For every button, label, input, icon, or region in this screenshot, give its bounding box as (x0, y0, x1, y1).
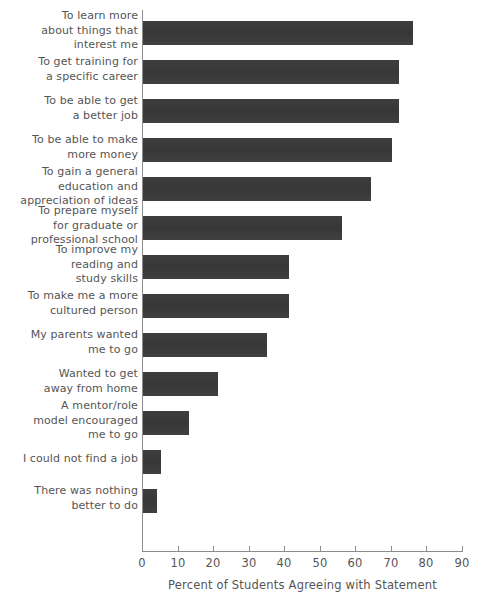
bar-category-label: To make me a more cultured person (8, 289, 138, 318)
bar-row: To be able to get a better job (0, 88, 491, 127)
x-axis-tick-label: 20 (193, 556, 233, 570)
x-axis-tick-label: 50 (300, 556, 340, 570)
bar-row: To be able to make more money (0, 127, 491, 166)
bar-row: Wanted to get away from home (0, 361, 491, 400)
bar (143, 489, 157, 513)
bar (143, 255, 289, 279)
bar-row: A mentor/role model encouraged me to go (0, 400, 491, 439)
x-axis-tick (284, 546, 285, 552)
bar-row: To get training for a specific career (0, 49, 491, 88)
bar (143, 99, 399, 123)
bar-category-label: To be able to make more money (8, 133, 138, 162)
bar-category-label: To learn more about things that interest… (8, 9, 138, 53)
bar (143, 411, 189, 435)
bar (143, 333, 267, 357)
bar-category-label: To get training for a specific career (8, 55, 138, 84)
bar-rows-container: To learn more about things that interest… (0, 10, 491, 551)
x-axis-tick-label: 0 (122, 556, 162, 570)
bar-row: I could not find a job (0, 439, 491, 478)
bar-row: My parents wanted me to go (0, 322, 491, 361)
bar-category-label: A mentor/role model encouraged me to go (8, 399, 138, 443)
x-axis-tick (320, 546, 321, 552)
bar-row: There was nothing better to do (0, 478, 491, 517)
bar (143, 372, 218, 396)
x-axis-tick (249, 546, 250, 552)
horizontal-bar-chart: To learn more about things that interest… (0, 0, 491, 609)
x-axis-tick (213, 546, 214, 552)
x-axis-title: Percent of Students Agreeing with Statem… (142, 578, 463, 592)
bar-row: To improve my reading and study skills (0, 244, 491, 283)
bar (143, 138, 392, 162)
bar-row: To prepare myself for graduate or profes… (0, 205, 491, 244)
bar (143, 294, 289, 318)
x-axis-tick (178, 546, 179, 552)
bar-category-label: To gain a general education and apprecia… (8, 165, 138, 209)
x-axis-tick-label: 80 (406, 556, 446, 570)
bar-category-label: To improve my reading and study skills (8, 243, 138, 287)
bar-category-label: To prepare myself for graduate or profes… (8, 204, 138, 248)
bar-row: To gain a general education and apprecia… (0, 166, 491, 205)
bar (143, 21, 413, 45)
bar-row: To make me a more cultured person (0, 283, 491, 322)
x-axis-tick-label: 90 (442, 556, 482, 570)
x-axis-tick-label: 60 (335, 556, 375, 570)
bar (143, 450, 161, 474)
bar-category-label: I could not find a job (8, 452, 138, 467)
bar-category-label: There was nothing better to do (8, 484, 138, 513)
bar-row: To learn more about things that interest… (0, 10, 491, 49)
x-axis-tick-label: 10 (158, 556, 198, 570)
x-axis-tick (355, 546, 356, 552)
bar-category-label: To be able to get a better job (8, 94, 138, 123)
bar (143, 177, 371, 201)
x-axis-tick-label: 30 (229, 556, 269, 570)
x-axis-tick-label: 40 (264, 556, 304, 570)
x-axis-tick (142, 546, 143, 552)
bar (143, 60, 399, 84)
x-axis-tick (426, 546, 427, 552)
x-axis-line (142, 551, 463, 552)
bar-category-label: Wanted to get away from home (8, 367, 138, 396)
bar (143, 216, 342, 240)
bar-category-label: My parents wanted me to go (8, 328, 138, 357)
x-axis-tick (391, 546, 392, 552)
x-axis-tick (462, 546, 463, 552)
x-axis-tick-label: 70 (371, 556, 411, 570)
